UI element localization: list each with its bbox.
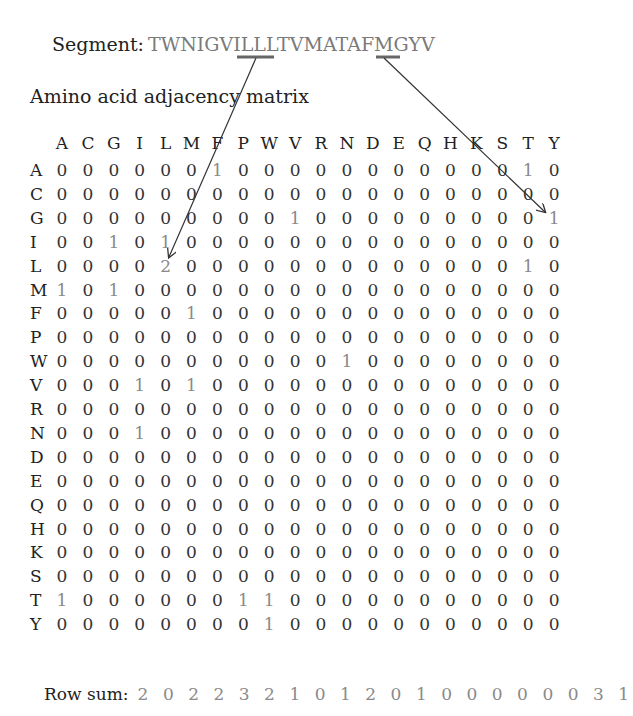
arrow-mg-to-gy <box>384 58 545 212</box>
annotation-arrows <box>0 0 633 716</box>
arrow-lll-to-ll <box>169 58 256 257</box>
